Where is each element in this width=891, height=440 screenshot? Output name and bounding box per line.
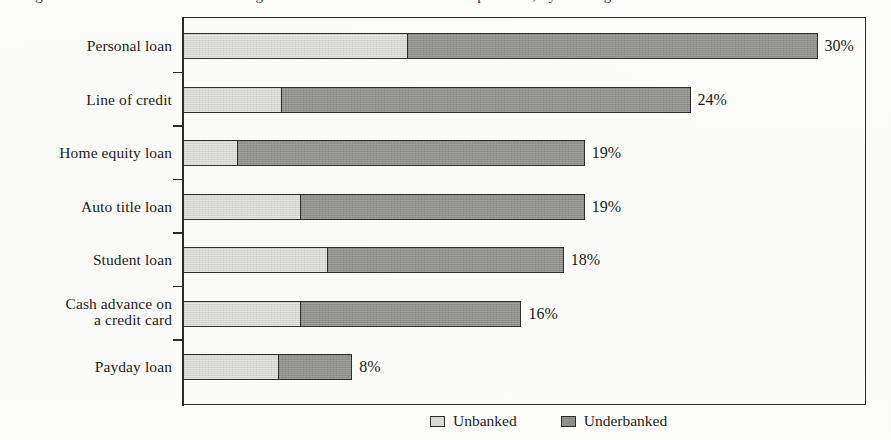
chart-row: Personal loan30% bbox=[0, 33, 891, 59]
bar-segment-underbanked[interactable] bbox=[281, 88, 690, 112]
chart-row: Home equity loan19% bbox=[0, 140, 891, 166]
bar-value-label: 18% bbox=[571, 247, 600, 273]
stacked-bar[interactable] bbox=[183, 87, 691, 113]
stacked-bar[interactable] bbox=[183, 247, 564, 273]
chart-row: Cash advance ona credit card16% bbox=[0, 301, 891, 327]
bar-value-label: 16% bbox=[528, 301, 557, 327]
y-axis-tick bbox=[173, 72, 184, 74]
bar-segment-unbanked[interactable] bbox=[184, 88, 281, 112]
category-label: Student loan bbox=[0, 251, 172, 268]
category-label: Home equity loan bbox=[0, 144, 172, 161]
legend-item-underbanked[interactable]: Underbanked bbox=[561, 412, 668, 430]
y-axis-tick bbox=[173, 179, 184, 181]
category-label: Cash advance ona credit card bbox=[0, 296, 172, 328]
bar-value-label: 8% bbox=[359, 354, 380, 380]
bar-value-label: 24% bbox=[698, 87, 727, 113]
bar-segment-unbanked[interactable] bbox=[184, 34, 407, 58]
legend-item-unbanked[interactable]: Unbanked bbox=[430, 412, 517, 430]
chart-row: Auto title loan19% bbox=[0, 194, 891, 220]
stacked-bar[interactable] bbox=[183, 354, 352, 380]
bar-segment-unbanked[interactable] bbox=[184, 141, 237, 165]
legend-label-unbanked: Unbanked bbox=[453, 412, 517, 430]
y-axis-tick bbox=[173, 232, 184, 234]
bar-segment-underbanked[interactable] bbox=[327, 248, 563, 272]
y-axis-tick bbox=[173, 339, 184, 341]
y-axis-tick bbox=[173, 125, 184, 127]
category-label: Personal loan bbox=[0, 37, 172, 54]
underbanked-swatch-icon bbox=[561, 416, 576, 427]
legend-label-underbanked: Underbanked bbox=[584, 412, 668, 430]
chart-row: Line of credit24% bbox=[0, 87, 891, 113]
chart-page: Figure 1. Percent of households using al… bbox=[0, 0, 891, 440]
bar-segment-unbanked[interactable] bbox=[184, 302, 300, 326]
stacked-bar[interactable] bbox=[183, 33, 818, 59]
bar-segment-underbanked[interactable] bbox=[300, 302, 521, 326]
stacked-bar[interactable] bbox=[183, 301, 521, 327]
category-label: Payday loan bbox=[0, 358, 172, 375]
bar-segment-underbanked[interactable] bbox=[407, 34, 816, 58]
bar-segment-unbanked[interactable] bbox=[184, 195, 300, 219]
bar-segment-underbanked[interactable] bbox=[278, 355, 351, 379]
category-label: Line of credit bbox=[0, 91, 172, 108]
stacked-bar[interactable] bbox=[183, 140, 585, 166]
bar-segment-underbanked[interactable] bbox=[237, 141, 584, 165]
category-label: Auto title loan bbox=[0, 198, 172, 215]
bar-value-label: 30% bbox=[825, 33, 854, 59]
category-label-line2: a credit card bbox=[0, 312, 172, 328]
bar-segment-unbanked[interactable] bbox=[184, 248, 327, 272]
category-label-line1: Cash advance on bbox=[0, 296, 172, 312]
chart-legend: Unbanked Underbanked bbox=[430, 410, 667, 432]
bar-value-label: 19% bbox=[592, 140, 621, 166]
chart-row: Payday loan8% bbox=[0, 354, 891, 380]
y-axis-tick bbox=[173, 286, 184, 288]
bar-segment-underbanked[interactable] bbox=[300, 195, 584, 219]
figure-title-cropped: Figure 1. Percent of households using al… bbox=[0, 0, 891, 5]
unbanked-swatch-icon bbox=[430, 416, 445, 427]
chart-row: Student loan18% bbox=[0, 247, 891, 273]
stacked-bar[interactable] bbox=[183, 194, 585, 220]
bar-segment-unbanked[interactable] bbox=[184, 355, 278, 379]
bar-value-label: 19% bbox=[592, 194, 621, 220]
